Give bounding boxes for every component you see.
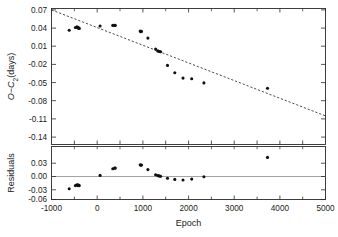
main-panel-data-points: [68, 24, 269, 90]
main-panel-y-ticklabels: 0.07 0.04 0.01 -0.02 -0.05 -0.08 -0.11 -…: [28, 6, 47, 142]
x-ticklabel: 4000: [271, 204, 290, 213]
residuals-panel-y-ticklabels: 0.03 0.00 -0.03 -0.06: [28, 159, 47, 204]
residuals-y-ticklabel: -0.03: [28, 186, 47, 195]
residual-point: [114, 167, 117, 170]
residuals-panel-frame: [52, 147, 326, 200]
data-point: [146, 37, 149, 40]
main-panel-y-ticks-right: [321, 10, 326, 137]
residuals-panel-y-ticks-right: [321, 163, 326, 199]
data-point: [114, 24, 117, 27]
x-ticklabel: 0: [95, 204, 100, 213]
main-panel: 0.07 0.04 0.01 -0.02 -0.05 -0.08 -0.11 -…: [6, 6, 326, 145]
main-panel-frame: [52, 9, 326, 145]
data-point: [202, 81, 205, 84]
y-ticklabel: -0.02: [28, 60, 47, 69]
residual-point: [68, 187, 71, 190]
y-ticklabel: -0.11: [29, 115, 47, 124]
x-ticklabels: -1000 0 1000 2000 3000 4000 5000: [41, 204, 335, 213]
trend-line-dashed: [52, 10, 326, 116]
residual-point: [78, 184, 81, 187]
y-ticklabel: -0.05: [28, 79, 47, 88]
residual-point: [159, 175, 162, 178]
data-point: [78, 27, 81, 30]
residuals-panel-data-points: [68, 156, 269, 190]
main-panel-x-ticks-bottom: [74, 141, 302, 145]
data-point: [68, 29, 71, 32]
residual-point: [181, 178, 184, 181]
x-ticklabel: 2000: [179, 204, 198, 213]
x-ticklabel: 3000: [225, 204, 244, 213]
x-ticklabel: -1000: [41, 204, 62, 213]
residual-point: [166, 177, 169, 180]
y-ticklabel: 0.01: [31, 42, 47, 51]
y-ticklabel: -0.08: [28, 97, 47, 106]
residuals-panel-y-ticks: [52, 163, 57, 199]
residuals-panel-x-ticks-bottom: [52, 196, 326, 200]
x-ticklabel: 5000: [316, 204, 335, 213]
y-ticklabel: -0.14: [28, 133, 47, 142]
data-point: [140, 30, 143, 33]
x-ticklabel: 1000: [134, 204, 153, 213]
svg-text:O−C2(days): O−C2(days): [6, 53, 19, 100]
residual-point: [99, 174, 102, 177]
data-point: [190, 77, 193, 80]
residual-point: [190, 178, 193, 181]
residuals-axis-label: Residuals: [6, 153, 16, 193]
y-axis-symbol-o: O: [6, 93, 16, 100]
residual-point: [140, 163, 143, 166]
data-point: [166, 64, 169, 67]
data-point: [173, 71, 176, 74]
y-ticklabel: 0.07: [31, 6, 47, 15]
data-point: [181, 77, 184, 80]
residuals-panel: 0.03 0.00 -0.03 -0.06 Residuals: [6, 147, 326, 205]
residuals-y-ticklabel: 0.00: [31, 172, 47, 181]
x-axis-title: Epoch: [176, 218, 202, 228]
data-point: [266, 87, 269, 90]
data-point: [159, 50, 162, 53]
main-panel-y-ticks: [52, 10, 57, 137]
main-panel-x-ticks-top: [52, 9, 326, 13]
residuals-y-axis-title: Residuals: [6, 153, 16, 193]
residual-point: [266, 156, 269, 159]
residual-point: [202, 175, 205, 178]
residual-point: [146, 168, 149, 171]
data-point: [99, 24, 102, 27]
y-axis-units: (days): [6, 53, 16, 78]
residual-point: [173, 178, 176, 181]
o-minus-c-figure: 0.07 0.04 0.01 -0.02 -0.05 -0.08 -0.11 -…: [0, 0, 338, 237]
y-ticklabel: 0.04: [31, 24, 47, 33]
residuals-y-ticklabel: 0.03: [31, 159, 47, 168]
main-panel-y-axis-title: O−C2(days): [6, 53, 19, 100]
plot-canvas: 0.07 0.04 0.01 -0.02 -0.05 -0.08 -0.11 -…: [0, 0, 338, 237]
